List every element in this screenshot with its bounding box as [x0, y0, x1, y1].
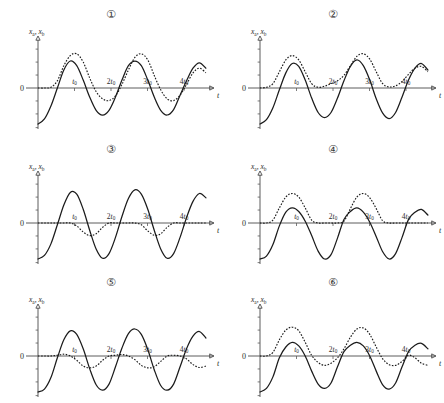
panel-5: ⑤xa, xbt0t02t03t04t0 — [0, 268, 222, 403]
panel-5-curve-x-a — [38, 329, 206, 392]
x-tick-label: 2t0 — [107, 345, 116, 355]
x-tick-label: 2t0 — [107, 212, 116, 222]
origin-label: 0 — [20, 352, 24, 361]
panel-3: ③xa, xbt0t02t03t04t0 — [0, 135, 222, 268]
panel-1: ①xa, xbt0t02t03t04t0 — [0, 0, 222, 135]
x-tick-label: 2t0 — [329, 345, 338, 355]
x-tick-label: t0 — [294, 77, 299, 87]
x-tick-label: 4t0 — [402, 212, 411, 222]
panel-3-plot: xa, xbt0t02t03t04t0 — [0, 135, 222, 270]
x-tick-label: 2t0 — [107, 77, 116, 87]
x-axis-label: t — [217, 359, 220, 368]
y-axis-arrow — [258, 36, 262, 40]
x-tick-label: t0 — [72, 77, 77, 87]
x-axis-label: t — [439, 91, 442, 100]
x-tick-label: t0 — [72, 212, 77, 222]
panel-4: ④xa, xbt0t02t03t04t0 — [222, 135, 444, 268]
figure-grid: ①xa, xbt0t02t03t04t0②xa, xbt0t02t03t04t0… — [0, 0, 444, 403]
panel-2: ②xa, xbt0t02t03t04t0 — [222, 0, 444, 135]
origin-label: 0 — [20, 219, 24, 228]
x-axis-label: t — [217, 91, 220, 100]
y-axis-label: xa, xb — [28, 295, 45, 305]
origin-label: 0 — [242, 84, 246, 93]
y-axis-label: xa, xb — [250, 27, 267, 37]
origin-label: 0 — [242, 219, 246, 228]
origin-label: 0 — [242, 352, 246, 361]
x-axis-label: t — [439, 359, 442, 368]
x-tick-label: 4t0 — [402, 345, 411, 355]
panel-1-plot: xa, xbt0t02t03t04t0 — [0, 0, 222, 135]
y-axis-label: xa, xb — [28, 27, 45, 37]
y-axis-label: xa, xb — [250, 162, 267, 172]
y-axis-arrow — [36, 304, 40, 308]
y-axis-arrow — [258, 304, 262, 308]
panel-5-plot: xa, xbt0t02t03t04t0 — [0, 268, 222, 403]
origin-label: 0 — [20, 84, 24, 93]
y-axis-label: xa, xb — [28, 162, 45, 172]
panel-2-plot: xa, xbt0t02t03t04t0 — [222, 0, 444, 135]
panel-6: ⑥xa, xbt0t02t03t04t0 — [222, 268, 444, 403]
panel-3-curve-x-a — [38, 190, 206, 259]
panel-2-curve-x-a — [260, 60, 428, 124]
panel-4-plot: xa, xbt0t02t03t04t0 — [222, 135, 444, 270]
y-axis-arrow — [36, 171, 40, 175]
panel-1-curve-x-a — [38, 61, 206, 124]
x-tick-label: t0 — [72, 345, 77, 355]
panel-6-plot: xa, xbt0t02t03t04t0 — [222, 268, 444, 403]
y-axis-arrow — [36, 36, 40, 40]
x-tick-label: 2t0 — [329, 212, 338, 222]
y-axis-label: xa, xb — [250, 295, 267, 305]
x-axis-label: t — [439, 226, 442, 235]
x-axis-label: t — [217, 226, 220, 235]
x-tick-label: t0 — [294, 212, 299, 222]
y-axis-arrow — [258, 171, 262, 175]
